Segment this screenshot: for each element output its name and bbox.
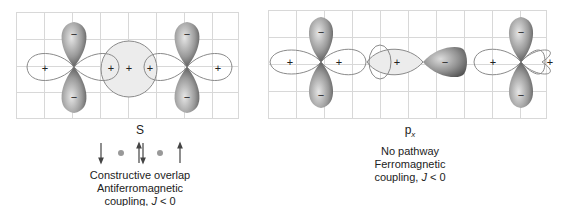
s-orbital-svg: − − + + + + + − − — [0, 0, 250, 122]
px-negative-sign: − — [442, 56, 448, 68]
svg-text:+: + — [547, 56, 553, 68]
caption-line1: Constructive overlap — [60, 169, 220, 182]
orbital-label-s: S — [60, 124, 220, 137]
s-orbital-diagram: − − + + + + + − − — [0, 0, 250, 122]
px-caption: px No pathway Ferromagnetic coupling, J … — [355, 124, 465, 184]
spin-up-arrow — [137, 143, 141, 148]
sign-center: + — [126, 62, 132, 74]
spin-down-arrow — [141, 158, 145, 163]
caption-line2: Ferromagnetic — [355, 158, 465, 171]
caption-line2: Antiferromagnetic — [60, 182, 220, 195]
svg-text:−: − — [318, 89, 324, 101]
spin-down-arrow — [99, 158, 103, 163]
spin-diagram — [60, 141, 220, 165]
svg-text:−: − — [518, 89, 524, 101]
orbital-label-px: px — [355, 124, 465, 141]
svg-text:−: − — [518, 26, 524, 38]
caption-line3: coupling, J < 0 — [355, 171, 465, 184]
svg-text:−: − — [184, 91, 190, 103]
svg-text:+: + — [490, 56, 496, 68]
caption-line1: No pathway — [355, 145, 465, 158]
dot — [118, 150, 124, 156]
px-orbital-svg: − − + + + − + − − + — [260, 0, 560, 122]
caption-line3: coupling, J < 0 — [60, 195, 220, 206]
sign-top-left: − — [71, 28, 77, 40]
svg-text:+: + — [108, 62, 114, 74]
px-positive-sign: + — [394, 56, 400, 68]
px-orbital-diagram: − − + + + − + − − + — [260, 0, 560, 122]
svg-text:+: + — [336, 56, 342, 68]
svg-text:−: − — [318, 26, 324, 38]
svg-text:+: + — [287, 56, 293, 68]
s-caption: S Constructive overlap Antiferromagnetic… — [60, 124, 220, 206]
svg-text:−: − — [184, 28, 190, 40]
spin-up-arrow — [178, 143, 182, 148]
dot — [157, 150, 163, 156]
sign-bottom-left: − — [71, 91, 77, 103]
sign-side-left: + — [42, 62, 48, 74]
svg-text:+: + — [215, 62, 221, 74]
svg-text:+: + — [147, 62, 153, 74]
